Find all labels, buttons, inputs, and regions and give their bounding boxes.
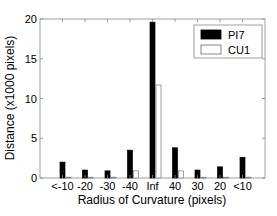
x-tick-label: -30	[100, 180, 116, 192]
x-tick-label: -20	[77, 180, 93, 192]
x-tick-label: 20	[214, 180, 226, 192]
x-tick-label: Inf	[146, 180, 159, 192]
legend-label-cu1: CU1	[228, 44, 250, 56]
bar-cu1	[246, 177, 251, 178]
bar-chart: 05101520 <-10-20-30-40Inf403020<10 Radiu…	[0, 0, 277, 216]
bar-pi7	[240, 157, 245, 178]
legend: PI7 CU1	[194, 25, 262, 58]
x-tick-label: <10	[233, 180, 252, 192]
y-tick-label: 20	[25, 13, 37, 25]
legend-swatch-pi7	[201, 30, 221, 39]
bar-cu1	[224, 177, 229, 178]
x-axis-title: Radius of Curvature (pixels)	[78, 193, 227, 207]
y-tick-label: 10	[25, 93, 37, 105]
bar-cu1	[179, 171, 184, 178]
legend-label-pi7: PI7	[228, 29, 245, 41]
bar-cu1	[111, 177, 116, 178]
y-tick-label: 15	[25, 53, 37, 65]
bar-cu1	[89, 177, 94, 178]
legend-swatch-cu1	[201, 45, 221, 54]
bar-pi7	[150, 22, 155, 178]
y-tick-label: 5	[31, 132, 37, 144]
bar-pi7	[128, 150, 133, 178]
x-tick-label: <-10	[51, 180, 73, 192]
bar-cu1	[201, 177, 206, 178]
bar-cu1	[156, 85, 161, 178]
bar-cu1	[66, 177, 71, 178]
x-tick-label: 40	[169, 180, 181, 192]
x-tick-label: -40	[122, 180, 138, 192]
bar-cu1	[134, 171, 139, 178]
bar-pi7	[173, 148, 178, 178]
y-tick-label: 0	[31, 172, 37, 184]
x-tick-label: 30	[191, 180, 203, 192]
y-axis-title: Distance (x1000 pixels)	[3, 36, 17, 161]
